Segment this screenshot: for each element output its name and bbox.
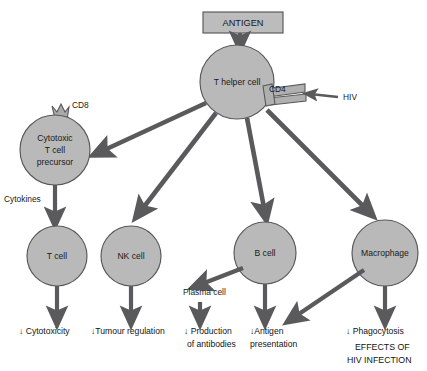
diagram-canvas: ANTIGEN T helper cell CD4 HIV CD8 xyxy=(0,0,427,371)
node-macrophage: Macrophage xyxy=(352,220,418,286)
arrow-b-cell-to-plasma-cell xyxy=(199,268,243,285)
node-label-b-cell: B cell xyxy=(254,248,275,258)
node-t-cell: T cell xyxy=(27,226,87,286)
outcome-cytotoxicity-line-1: ↓ Cytotoxicity xyxy=(19,326,70,336)
outcome-antibody-production-line-2: of antibodies xyxy=(187,339,236,349)
antigen-box-label: ANTIGEN xyxy=(223,18,264,28)
outcome-antigen-presentation-line-1: ↓Antigen xyxy=(250,326,284,336)
node-cytotoxic-t-cell-precursor: Cytotoxic T cell precursor xyxy=(20,115,90,185)
cd8-receptor-label: CD8 xyxy=(72,100,89,110)
hiv-label: HIV xyxy=(343,92,357,102)
arrow-t-helper-to-b-cell xyxy=(247,118,265,213)
outcome-antigen-presentation-line-2: presentation xyxy=(250,339,298,349)
node-label-cytotoxic-line-1: Cytotoxic xyxy=(37,133,73,143)
cd4-receptor-label: CD4 xyxy=(269,84,286,94)
plasma-cell-label: Plasma cell xyxy=(183,287,226,297)
node-label-t-cell: T cell xyxy=(47,251,67,261)
antigen-box: ANTIGEN xyxy=(203,12,283,33)
arrow-t-helper-to-macrophage xyxy=(267,110,368,211)
immune-response-diagram: ANTIGEN T helper cell CD4 HIV CD8 xyxy=(0,0,427,371)
node-label-cytotoxic-line-3: precursor xyxy=(37,157,73,167)
node-label-macrophage: Macrophage xyxy=(361,248,409,258)
node-b-cell: B cell xyxy=(234,222,296,284)
arrow-hiv-to-cd4 xyxy=(310,94,338,97)
node-nk-cell: NK cell xyxy=(101,226,161,286)
outcome-antibody-production-line-1: ↓ Production xyxy=(184,326,232,336)
outcome-tumour-regulation-line-1: ↓Tumour regulation xyxy=(91,326,165,336)
footer-line-1: EFFECTS OF xyxy=(355,342,410,352)
footer-line-2: HIV INFECTION xyxy=(347,355,412,365)
arrow-macrophage-to-antigen-presentation xyxy=(293,270,364,318)
node-t-helper-cell: T helper cell xyxy=(200,45,274,119)
cytokines-label: Cytokines xyxy=(4,194,41,204)
node-label-cytotoxic-line-2: T cell xyxy=(45,145,65,155)
node-label-t-helper-cell: T helper cell xyxy=(214,77,261,87)
node-label-nk-cell: NK cell xyxy=(117,251,144,261)
outcome-phagocytosis-line-1: ↓ Phagocytosis xyxy=(346,326,404,336)
